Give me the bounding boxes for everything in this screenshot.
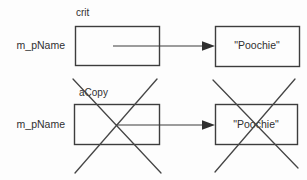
crossout-acopy-line-1 <box>73 79 161 173</box>
row-acopy: aCopy m_pName "Poochie" <box>17 79 298 173</box>
pointer-label-top: m_pName <box>17 39 66 51</box>
pointer-diagram: crit m_pName "Poochie" aCopy m_pName "Po… <box>0 0 307 180</box>
diagram-canvas: crit m_pName "Poochie" aCopy m_pName "Po… <box>0 0 307 180</box>
pointer-arrowhead-top <box>202 41 215 51</box>
pointer-arrowhead-bottom <box>202 120 215 130</box>
string-value-top: "Poochie" <box>234 39 280 51</box>
object-label-acopy: aCopy <box>79 87 108 98</box>
pointer-label-bottom: m_pName <box>17 118 66 130</box>
object-label-crit: crit <box>76 7 90 18</box>
row-crit: crit m_pName "Poochie" <box>17 7 300 67</box>
crossout-poochie-line-2 <box>215 79 295 172</box>
